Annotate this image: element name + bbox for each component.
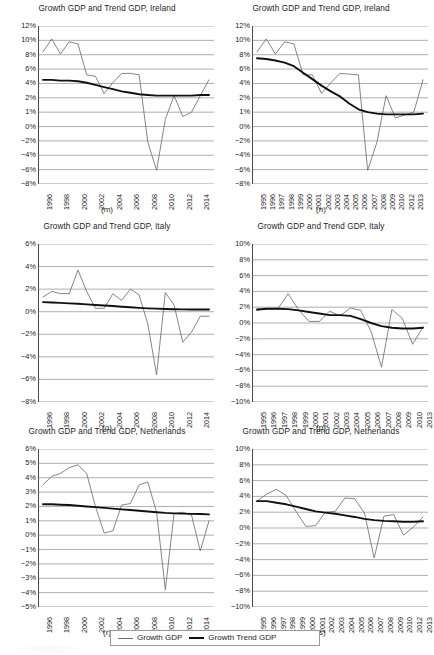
legend-line-icon-growth-trend-gdp <box>189 637 204 639</box>
y-tick-label: 8% <box>217 256 250 263</box>
y-tick-label: −2% <box>3 560 36 567</box>
y-tick-label: 2% <box>217 94 250 101</box>
plot-canvas-m <box>38 26 214 184</box>
chart-panel-r: Growth GDP and Trend GDP, Netherlands 6%… <box>0 427 214 639</box>
y-tick-label: 4% <box>3 474 36 481</box>
y-tick-label: −2% <box>217 137 250 144</box>
chart-panel-o: Growth GDP and Trend GDP, Italy 6%4%2%0%… <box>0 222 214 434</box>
y-tick-label: 6% <box>3 65 36 72</box>
y-tick-label: 8% <box>3 51 36 58</box>
y-tick-label: 1% <box>217 108 250 115</box>
y-tick-label: 6% <box>3 445 36 452</box>
chart-title-r: Growth GDP and Trend GDP, Netherlands <box>0 427 214 437</box>
plot-canvas-s <box>252 449 428 607</box>
y-tick-label: −4% <box>217 151 250 158</box>
y-tick-label: 2% <box>3 285 36 292</box>
y-tick-label: −2% <box>217 540 250 547</box>
y-tick-label: −6% <box>217 366 250 373</box>
y-tick-label: −4% <box>217 556 250 563</box>
legend-label-growth-gdp: Growth GDP <box>137 633 182 643</box>
y-tick-label: 10% <box>217 240 250 247</box>
y-tick-label: 0% <box>3 531 36 538</box>
y-tick-label: 6% <box>3 240 36 247</box>
y-tick-label: 0% <box>217 524 250 531</box>
y-tick-label: 10% <box>217 445 250 452</box>
y-tick-label: −5% <box>3 603 36 610</box>
y-tick-label: 6% <box>217 272 250 279</box>
series-growth-gdp <box>257 294 423 367</box>
series-growth-trend-gdp <box>43 504 209 514</box>
y-tick-label: 8% <box>217 51 250 58</box>
chart-title-n: Growth GDP and Trend GDP, Ireland <box>214 4 428 14</box>
y-tick-label: −2% <box>3 330 36 337</box>
legend-entry-growth-gdp: Growth GDP <box>118 633 182 643</box>
y-tick-label: −2% <box>217 335 250 342</box>
chart-title-m: Growth GDP and Trend GDP, Ireland <box>0 4 214 14</box>
chart-caption-n: (n) <box>214 204 428 215</box>
y-tick-label: −4% <box>3 589 36 596</box>
y-tick-label: 2% <box>217 508 250 515</box>
y-tick-label: −8% <box>217 382 250 389</box>
chart-title-p: Growth GDP and Trend GDP, Italy <box>214 222 428 232</box>
y-tick-label: −2% <box>3 137 36 144</box>
y-tick-label: −1% <box>3 546 36 553</box>
series-growth-gdp <box>43 270 209 375</box>
chart-panel-n: Growth GDP and Trend GDP, Ireland 12%10%… <box>214 4 428 216</box>
y-tick-label: 2% <box>217 303 250 310</box>
y-tick-label: −8% <box>217 180 250 187</box>
y-tick-label: 2% <box>3 502 36 509</box>
series-growth-gdp <box>43 465 209 590</box>
y-tick-label: 4% <box>217 492 250 499</box>
y-tick-label: −4% <box>3 353 36 360</box>
y-tick-label: 12% <box>217 22 250 29</box>
y-tick-label: −8% <box>3 398 36 405</box>
y-tick-label: 4% <box>3 79 36 86</box>
y-tick-label: 1% <box>3 108 36 115</box>
y-tick-label: −8% <box>217 587 250 594</box>
series-growth-gdp <box>257 39 423 170</box>
y-tick-label: 4% <box>3 263 36 270</box>
legend-entry-growth-trend-gdp: Growth Trend GDP <box>189 633 276 643</box>
legend-line-icon-growth-gdp <box>118 638 133 639</box>
y-tick-label: 0% <box>217 123 250 130</box>
y-tick-label: −10% <box>217 603 250 610</box>
chart-panel-p: Growth GDP and Trend GDP, Italy 10%8%6%4… <box>214 222 428 434</box>
y-tick-label: 0% <box>3 308 36 315</box>
series-growth-trend-gdp <box>257 309 423 329</box>
y-tick-label: 8% <box>217 461 250 468</box>
y-tick-label: 0% <box>3 123 36 130</box>
plot-canvas-o <box>38 244 214 402</box>
chart-title-s: Growth GDP and Trend GDP, Netherlands <box>214 427 428 437</box>
y-tick-label: 10% <box>217 36 250 43</box>
y-tick-label: 6% <box>217 65 250 72</box>
y-tick-label: −6% <box>3 375 36 382</box>
chart-caption-m: (m) <box>0 204 214 215</box>
y-tick-label: 10% <box>3 36 36 43</box>
y-tick-label: 12% <box>3 22 36 29</box>
y-tick-label: −8% <box>3 180 36 187</box>
y-tick-label: −4% <box>217 351 250 358</box>
plot-canvas-r <box>38 449 214 607</box>
y-tick-label: −6% <box>217 571 250 578</box>
y-tick-label: 5% <box>3 459 36 466</box>
y-tick-label: −3% <box>3 574 36 581</box>
chart-panel-s: Growth GDP and Trend GDP, Netherlands 10… <box>214 427 428 639</box>
y-tick-label: −6% <box>3 166 36 173</box>
y-tick-label: 4% <box>217 79 250 86</box>
series-growth-gdp <box>43 39 209 170</box>
figure-legend: Growth GDP Growth Trend GDP <box>110 630 320 646</box>
y-tick-label: 4% <box>217 287 250 294</box>
series-growth-trend-gdp <box>257 58 423 114</box>
y-tick-label: 1% <box>3 517 36 524</box>
series-growth-gdp <box>257 489 423 558</box>
y-tick-label: 3% <box>3 488 36 495</box>
y-tick-label: 0% <box>217 319 250 326</box>
y-tick-label: 2% <box>3 94 36 101</box>
y-tick-label: −10% <box>217 398 250 405</box>
y-tick-label: −4% <box>3 151 36 158</box>
chart-panel-m: Growth GDP and Trend GDP, Ireland 12%10%… <box>0 4 214 216</box>
y-tick-label: 6% <box>217 477 250 484</box>
plot-canvas-p <box>252 244 428 402</box>
plot-canvas-n <box>252 26 428 184</box>
